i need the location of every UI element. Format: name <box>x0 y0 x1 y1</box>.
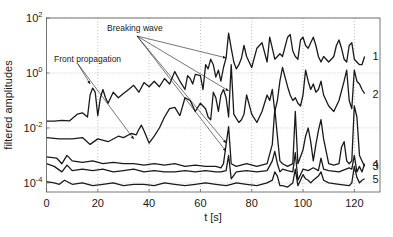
series-1-label: 1 <box>373 50 379 62</box>
x-tick-label: 60 <box>194 197 206 209</box>
y-axis-ticks: 10210010-210-4 <box>24 10 50 189</box>
series-labels: 12345 <box>373 50 379 184</box>
y-tick-label: 10-4 <box>24 175 43 189</box>
annotation-arrow <box>78 64 90 84</box>
x-axis-label: t [s] <box>204 211 222 223</box>
series-5-label: 5 <box>373 173 379 185</box>
x-tick-label: 40 <box>143 197 155 209</box>
annotation-label: Front propagation <box>54 54 121 64</box>
annotation-arrow <box>137 36 226 143</box>
y-tick-label: 102 <box>26 10 42 24</box>
x-tick-label: 120 <box>345 197 363 209</box>
x-tick-label: 80 <box>246 197 258 209</box>
y-tick-label: 100 <box>26 65 42 79</box>
series-4-label: 4 <box>373 158 379 170</box>
x-tick-label: 0 <box>43 197 49 209</box>
series-2-line <box>47 65 365 145</box>
x-tick-label: 100 <box>294 197 312 209</box>
annotation-arrow <box>137 36 229 91</box>
y-tick-label: 10-2 <box>24 120 43 134</box>
annotation-label: Breaking wave <box>107 23 163 33</box>
x-tick-label: 20 <box>92 197 104 209</box>
series-2-label: 2 <box>373 88 379 100</box>
series-3-line <box>47 106 365 168</box>
y-axis-label: filtered amplitudes <box>2 60 14 150</box>
chart: 020406080100120 10210010-210-4 12345 Bre… <box>0 0 393 237</box>
annotation-arrow <box>137 36 226 58</box>
